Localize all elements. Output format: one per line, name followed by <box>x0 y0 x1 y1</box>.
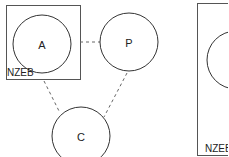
node-right-circle-partial <box>207 31 228 89</box>
node-p-label: P <box>125 38 132 49</box>
diagram-canvas <box>0 0 228 157</box>
node-a-label: A <box>38 40 45 51</box>
edge-p-c <box>104 73 127 117</box>
nzeb-box-right-label: NZEB <box>205 144 228 154</box>
node-c-label: C <box>77 132 85 143</box>
nzeb-box-left-label: NZEB <box>7 68 34 78</box>
nzeb-box-right <box>198 4 229 156</box>
edge-a-c <box>44 81 59 111</box>
